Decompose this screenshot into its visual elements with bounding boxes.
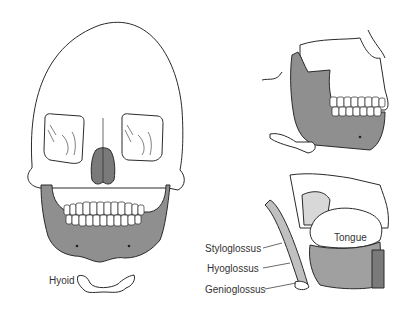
- teeth-lateral: [330, 97, 385, 116]
- nasal-bone: [368, 30, 385, 58]
- label-genioglossus: Genioglossus: [205, 285, 266, 295]
- teeth: [64, 202, 144, 226]
- label-hyoid: Hyoid: [49, 276, 75, 286]
- muscle-mass: [309, 242, 382, 289]
- hyoid-bone: [77, 275, 134, 293]
- label-styloglossus: Styloglossus: [205, 244, 261, 254]
- frontal-skull: [28, 22, 184, 292]
- tongue-lateral: [265, 174, 388, 290]
- left-orbit: [44, 114, 84, 164]
- mandible-section: [372, 250, 384, 288]
- label-hyoglossus: Hyoglossus: [207, 264, 259, 274]
- lateral-skull: [262, 30, 388, 153]
- label-tongue: Tongue: [334, 233, 367, 243]
- styloid-process: [262, 72, 282, 80]
